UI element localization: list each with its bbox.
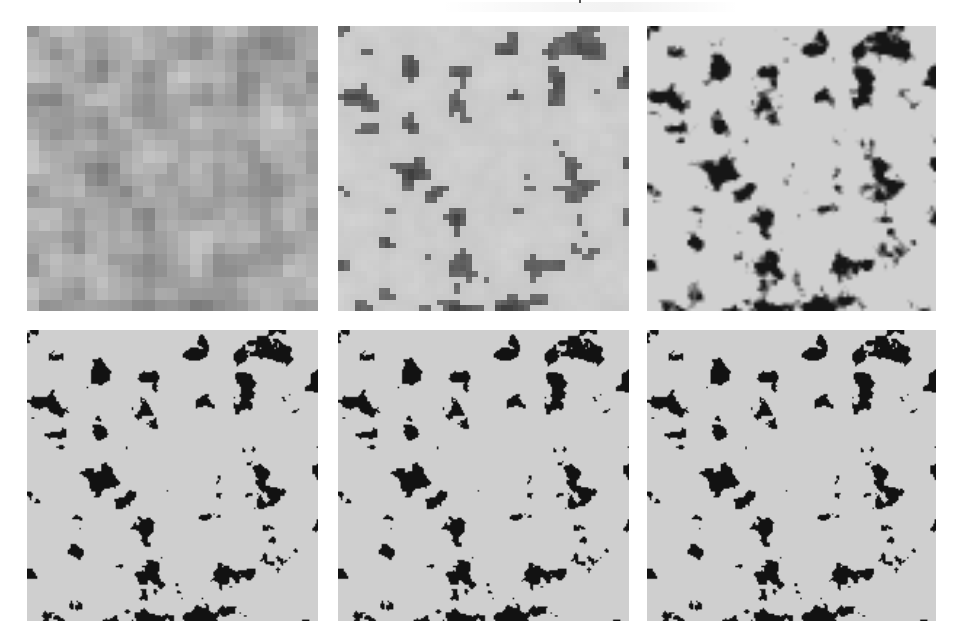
panel-3-image bbox=[647, 26, 936, 311]
panel-medium-grayscale bbox=[338, 26, 629, 311]
print-mark bbox=[579, 0, 581, 3]
panel-fine-smoothed bbox=[647, 26, 936, 311]
panel-binary-reconstruction-2 bbox=[338, 330, 629, 621]
panel-1-image bbox=[27, 26, 318, 311]
panel-binary-reconstruction-1 bbox=[27, 330, 318, 621]
panel-2-image bbox=[338, 26, 629, 311]
print-bleed-artifact bbox=[440, 2, 740, 12]
panel-6-image bbox=[647, 330, 936, 621]
panel-5-image bbox=[338, 330, 629, 621]
porous-media-figure bbox=[0, 0, 960, 639]
panel-binary-reconstruction-3 bbox=[647, 330, 936, 621]
panel-4-image bbox=[27, 330, 318, 621]
panel-coarse-grayscale bbox=[27, 26, 318, 311]
